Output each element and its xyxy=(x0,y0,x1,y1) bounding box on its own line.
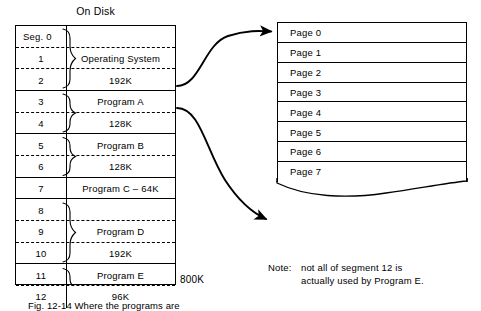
page-label: Page 5 xyxy=(290,127,321,138)
segment-row: 3Program A xyxy=(16,91,175,113)
segment-description: 128K xyxy=(66,156,175,178)
segment-row: 8 xyxy=(16,199,175,221)
note-label: Note: xyxy=(268,262,291,275)
page-row: Page 3 xyxy=(278,83,466,103)
page-row: Page 1 xyxy=(278,43,466,63)
page-label: Page 1 xyxy=(290,47,321,58)
segment-number: 10 xyxy=(16,243,66,265)
disk-table-title: On Disk xyxy=(15,5,176,18)
segment-description: 128K xyxy=(66,113,175,135)
segment-description xyxy=(66,26,175,48)
segment-row: 4128K xyxy=(16,113,175,135)
segment-description: Program D xyxy=(66,221,175,243)
segment-row: 1Operating System xyxy=(16,48,175,70)
segment-number: 4 xyxy=(16,113,66,135)
arrow-to-page-0 xyxy=(177,31,271,86)
page-label: Page 4 xyxy=(290,107,321,118)
segment-row: 5Program B xyxy=(16,134,175,156)
note-line-1: not all of segment 12 is xyxy=(301,262,424,275)
page-label: Page 6 xyxy=(290,146,321,157)
page-row: Page 0 xyxy=(278,23,466,43)
segment-row: 11Program E xyxy=(16,264,175,286)
segment-description xyxy=(66,199,175,221)
segment-row: 6128K xyxy=(16,156,175,178)
segment-number: 7 xyxy=(16,178,66,200)
page-row: Page 4 xyxy=(278,102,466,122)
page-row: Page 2 xyxy=(278,63,466,83)
segment-number: 8 xyxy=(16,199,66,221)
segment-description: Program C – 64K xyxy=(66,178,175,200)
page-label: Page 0 xyxy=(290,27,321,38)
segment-description: 192K xyxy=(66,69,175,91)
segment-row: 9Program D xyxy=(16,221,175,243)
segment-number: 11 xyxy=(16,264,66,286)
segment-row: 7Program C – 64K xyxy=(16,178,175,200)
note-line-2: actually used by Program E. xyxy=(301,275,424,288)
segment-number: 2 xyxy=(16,69,66,91)
segment-number: 1 xyxy=(16,48,66,70)
arrow-to-lower-pages xyxy=(177,108,266,219)
figure-caption: Fig. 12-14 Where the programs are xyxy=(28,300,180,311)
segment-row: 10192K xyxy=(16,243,175,265)
page-row: Page 6 xyxy=(278,142,466,162)
segment-description: Program A xyxy=(66,91,175,113)
segment-number: 6 xyxy=(16,156,66,178)
page-label: Page 2 xyxy=(290,67,321,78)
page-table-torn-edge xyxy=(276,178,468,200)
page-table: Page 0Page 1Page 2Page 3Page 4Page 5Page… xyxy=(277,22,467,182)
disk-capacity-label: 800K xyxy=(180,274,204,285)
segment-number: 5 xyxy=(16,134,66,156)
segment-description: 192K xyxy=(66,243,175,265)
page-row: Page 5 xyxy=(278,122,466,142)
segment-description: Operating System xyxy=(66,48,175,70)
segment-row: Seg. 0 xyxy=(16,26,175,48)
page-label: Page 3 xyxy=(290,87,321,98)
page-table-rows: Page 0Page 1Page 2Page 3Page 4Page 5Page… xyxy=(278,23,466,182)
note-block: Note: not all of segment 12 is actually … xyxy=(268,262,424,287)
segment-description: Program E xyxy=(66,264,175,286)
segment-description: Program B xyxy=(66,134,175,156)
disk-segment-rows: Seg. 01Operating System2192K3Program A41… xyxy=(16,26,175,308)
segment-number: 3 xyxy=(16,91,66,113)
segment-number: Seg. 0 xyxy=(16,26,73,48)
disk-segment-table: Seg. 01Operating System2192K3Program A41… xyxy=(15,25,176,285)
page-label: Page 7 xyxy=(290,166,321,177)
segment-number: 9 xyxy=(16,221,66,243)
segment-row: 2192K xyxy=(16,69,175,91)
